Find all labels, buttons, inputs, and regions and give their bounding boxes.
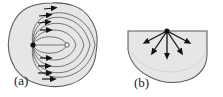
sink-circle-a bbox=[65, 43, 69, 47]
source-dot-b bbox=[164, 28, 169, 33]
panel-a-label: (a) bbox=[14, 73, 28, 88]
panel-a-dipole-field: (a) bbox=[0, 0, 112, 97]
figure-container: (a) (b) bbox=[0, 0, 223, 97]
panel-b-label: (b) bbox=[134, 75, 149, 90]
panel-b-divergence-field: (b) bbox=[112, 0, 223, 97]
source-dot-a bbox=[30, 42, 35, 47]
